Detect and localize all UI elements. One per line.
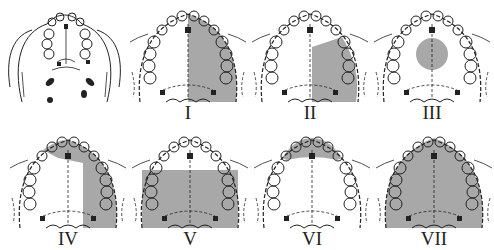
class-label: VII bbox=[374, 228, 494, 250]
class-label: III bbox=[372, 102, 492, 124]
panel-reference bbox=[2, 2, 127, 122]
palate-diagram-V bbox=[130, 128, 250, 233]
class-label: I bbox=[128, 102, 248, 124]
panel-class-VI: VI bbox=[252, 128, 372, 250]
panel-class-I: I bbox=[128, 2, 248, 124]
palate-diagram-I bbox=[128, 2, 248, 107]
palate-diagram-VI bbox=[252, 128, 372, 233]
skull-base-illustration bbox=[2, 2, 127, 122]
class-label: II bbox=[250, 102, 370, 124]
class-label: IV bbox=[8, 228, 128, 250]
palate-diagram-IV bbox=[8, 128, 128, 233]
panel-class-V: V bbox=[130, 128, 250, 250]
panel-class-VII: VII bbox=[374, 128, 494, 250]
palate-diagram-VII bbox=[374, 128, 494, 233]
panel-class-IV: IV bbox=[8, 128, 128, 250]
palate-diagram-II bbox=[250, 2, 370, 107]
palate-diagram-III bbox=[372, 2, 492, 107]
class-label: VI bbox=[252, 228, 372, 250]
class-label: V bbox=[130, 228, 250, 250]
panel-class-III: III bbox=[372, 2, 492, 124]
panel-class-II: II bbox=[250, 2, 370, 124]
